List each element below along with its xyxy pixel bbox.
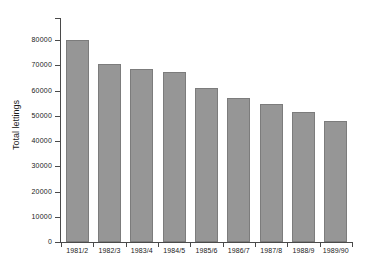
- x-tick-label: 1982/3: [93, 247, 125, 254]
- y-tick-label: 10000: [0, 213, 52, 220]
- bar-chart-plot-area: Total lettings 0100002000030000400005000…: [0, 0, 379, 273]
- x-tick-mark: [352, 242, 353, 247]
- y-tick-label: 0: [0, 238, 52, 245]
- y-tick-mark: [55, 91, 61, 92]
- x-tick-label: 1988/9: [287, 247, 319, 254]
- y-axis-line: [60, 18, 61, 243]
- x-tick-label: 1985/6: [190, 247, 222, 254]
- y-tick-label: 20000: [0, 188, 52, 195]
- x-tick-label: 1983/4: [126, 247, 158, 254]
- x-tick-label: 1984/5: [158, 247, 190, 254]
- x-tick-label: 1989/90: [320, 247, 352, 254]
- x-axis-line: [60, 242, 353, 243]
- bar: [227, 98, 250, 242]
- y-tick-mark: [55, 116, 61, 117]
- y-tick-mark: [55, 141, 61, 142]
- bar: [98, 64, 121, 242]
- y-tick-mark: [55, 40, 61, 41]
- bar: [260, 104, 283, 242]
- y-tick-label: 30000: [0, 162, 52, 169]
- x-tick-label: 1987/8: [255, 247, 287, 254]
- y-tick-mark: [55, 166, 61, 167]
- bar: [195, 88, 218, 242]
- y-tick-label: 60000: [0, 87, 52, 94]
- bar: [292, 112, 315, 242]
- y-tick-mark: [55, 192, 61, 193]
- bar: [130, 69, 153, 242]
- bar: [163, 72, 186, 242]
- y-tick-label: 40000: [0, 137, 52, 144]
- x-tick-label: 1981/2: [61, 247, 93, 254]
- bar: [66, 40, 89, 242]
- x-tick-label: 1986/7: [223, 247, 255, 254]
- y-tick-label: 70000: [0, 61, 52, 68]
- y-tick-label: 50000: [0, 112, 52, 119]
- y-axis-top-tick: [55, 18, 61, 19]
- y-tick-label: 80000: [0, 36, 52, 43]
- y-tick-mark: [55, 65, 61, 66]
- y-tick-mark: [55, 217, 61, 218]
- bar: [324, 121, 347, 242]
- chart-page: Total lettings 0100002000030000400005000…: [0, 0, 379, 273]
